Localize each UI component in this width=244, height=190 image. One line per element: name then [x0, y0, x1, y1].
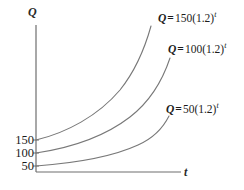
y-tick-label-150: 150	[0, 134, 34, 147]
y-axis-label: Q	[28, 6, 37, 18]
exponential-growth-figure: Q t 150 100 50 Q=150(1.2)t Q=100(1.2)t Q…	[0, 0, 244, 190]
x-axis-label: t	[184, 166, 187, 178]
curve-label-top-equals: =	[166, 12, 175, 24]
curve-label-middle: Q=100(1.2)t	[168, 44, 226, 56]
plot-area	[0, 0, 244, 190]
curve-label-middle-coefficient: 100(1.2)	[185, 43, 224, 55]
curve-label-bottom: Q=50(1.2)t	[166, 104, 219, 116]
curve-top	[36, 26, 151, 140]
curve-label-middle-equals: =	[176, 43, 185, 55]
curve-label-bottom-exponent: t	[216, 101, 218, 110]
curve-label-bottom-coefficient: 50(1.2)	[183, 103, 217, 115]
curve-bottom	[36, 116, 169, 166]
curve-label-bottom-equals: =	[174, 103, 183, 115]
curve-label-top-exponent: t	[214, 10, 216, 19]
curve-label-middle-exponent: t	[224, 41, 226, 50]
y-tick-label-100: 100	[0, 147, 34, 160]
curve-label-top-coefficient: 150(1.2)	[175, 12, 214, 24]
y-tick-label-50: 50	[0, 160, 34, 173]
curve-label-top: Q=150(1.2)t	[158, 13, 216, 25]
